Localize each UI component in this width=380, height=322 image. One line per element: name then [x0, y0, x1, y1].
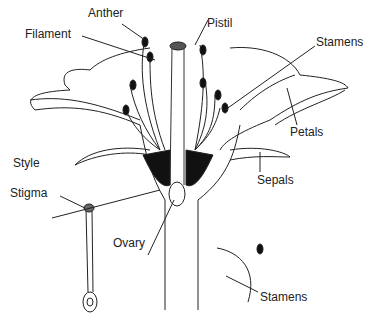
label-filament: Filament — [25, 27, 71, 41]
label-petals: Petals — [290, 125, 323, 139]
label-pistil: Pistil — [207, 16, 232, 30]
label-anther: Anther — [88, 6, 123, 20]
label-ovary: Ovary — [113, 236, 145, 250]
left-sepal — [75, 148, 150, 165]
label-sepals: Sepals — [257, 173, 294, 187]
label-stamens-bottom: Stamens — [260, 290, 307, 304]
label-style: Style — [13, 156, 40, 170]
ovary-shape — [169, 182, 185, 206]
stigma-top — [170, 42, 186, 50]
label-stamens-top: Stamens — [316, 35, 363, 49]
label-stigma: Stigma — [10, 186, 47, 200]
